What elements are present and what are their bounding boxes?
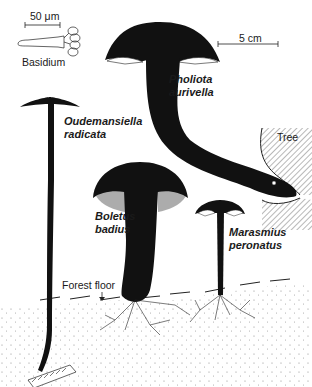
forest-floor-arrow [0,0,312,387]
mushroom-habit-diagram: 50 μm Basidium 5 cm Pholiota aurivella O… [0,0,312,387]
